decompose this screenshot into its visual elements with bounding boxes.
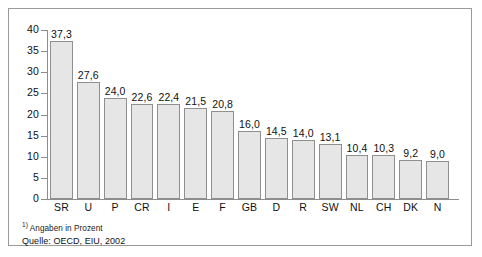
x-axis-label: I — [155, 201, 182, 213]
footnotes: 1) Angaben in Prozent Quelle: OECD, EIU,… — [22, 219, 452, 247]
bar — [184, 108, 207, 199]
footnote-marker: 1) — [22, 221, 28, 228]
bar-slot: 16,0 — [236, 22, 263, 199]
bar-value-label: 14,0 — [293, 127, 314, 139]
bar-slot: 24,0 — [102, 22, 129, 199]
bar-slot: 14,5 — [263, 22, 290, 199]
bar — [292, 140, 315, 199]
bar-value-label: 9,0 — [430, 148, 445, 160]
bar-value-label: 24,0 — [105, 85, 126, 97]
bar — [399, 160, 422, 199]
y-tick-mark — [41, 93, 47, 94]
bar-value-label: 14,5 — [266, 125, 287, 137]
x-axis-label: GB — [236, 201, 263, 213]
bar-value-label: 9,2 — [403, 147, 418, 159]
y-tick-label: 20 — [27, 108, 39, 120]
bar-slot: 22,4 — [155, 22, 182, 199]
bar — [211, 111, 234, 199]
bar-value-label: 20,8 — [212, 98, 233, 110]
y-tick-label: 15 — [27, 129, 39, 141]
bar — [131, 104, 154, 199]
bar — [265, 138, 288, 199]
x-axis-label: U — [75, 201, 102, 213]
x-axis-label: E — [182, 201, 209, 213]
x-axis-label: CR — [129, 201, 156, 213]
bar-slot: 9,2 — [397, 22, 424, 199]
bar-slot: 9,0 — [424, 22, 451, 199]
y-tick-label: 30 — [27, 65, 39, 77]
y-tick-mark — [41, 30, 47, 31]
y-tick-label: 10 — [27, 150, 39, 162]
bar-value-label: 16,0 — [239, 118, 260, 130]
x-axis-label: NL — [344, 201, 371, 213]
bar-slot: 21,5 — [182, 22, 209, 199]
bar-value-label: 27,6 — [78, 69, 99, 81]
bar — [372, 155, 395, 199]
bar-series: 37,327,624,022,622,421,520,816,014,514,0… — [48, 22, 451, 199]
y-tick-label: 35 — [27, 44, 39, 56]
y-tick-mark — [41, 136, 47, 137]
bar-slot: 37,3 — [48, 22, 75, 199]
bar-value-label: 21,5 — [185, 95, 206, 107]
bar — [426, 161, 449, 199]
bar — [104, 98, 127, 199]
x-axis-label: D — [263, 201, 290, 213]
y-tick-mark — [41, 157, 47, 158]
chart-figure: 4035302520151050 37,327,624,022,622,421,… — [8, 8, 472, 246]
x-axis-label: SW — [317, 201, 344, 213]
bar-slot: 20,8 — [209, 22, 236, 199]
bar-slot: 13,1 — [317, 22, 344, 199]
y-tick-mark — [41, 115, 47, 116]
y-tick-label: 0 — [33, 192, 39, 204]
bar-slot: 14,0 — [290, 22, 317, 199]
bar-value-label: 22,6 — [132, 91, 153, 103]
bar — [77, 82, 100, 199]
bar-slot: 10,4 — [344, 22, 371, 199]
x-axis-label: P — [102, 201, 129, 213]
y-tick-label: 25 — [27, 86, 39, 98]
bar-slot: 10,3 — [370, 22, 397, 199]
x-axis-label: F — [209, 201, 236, 213]
bar-value-label: 22,4 — [158, 91, 179, 103]
bar — [319, 144, 342, 199]
y-tick-mark — [41, 199, 47, 200]
bar — [50, 41, 73, 199]
bar — [157, 104, 180, 199]
x-axis-label: R — [290, 201, 317, 213]
unit-footnote-text: Angaben in Prozent — [30, 224, 103, 233]
x-axis-line — [47, 199, 459, 200]
y-tick-label: 5 — [33, 171, 39, 183]
y-tick-mark — [41, 178, 47, 179]
bar-slot: 22,6 — [129, 22, 156, 199]
x-axis-labels: SRUPCRIEFGBDRSWNLCHDKN — [48, 201, 451, 217]
bar-value-label: 37,3 — [51, 28, 72, 40]
bar-slot: 27,6 — [75, 22, 102, 199]
bar — [238, 131, 261, 199]
y-tick-mark — [41, 72, 47, 73]
plot-area: 4035302520151050 37,327,624,022,622,421,… — [47, 22, 451, 199]
bar-value-label: 13,1 — [320, 131, 341, 143]
y-tick-mark — [41, 51, 47, 52]
x-axis-label: SR — [48, 201, 75, 213]
bar-value-label: 10,3 — [373, 142, 394, 154]
bar — [346, 155, 369, 199]
y-tick-label: 40 — [27, 23, 39, 35]
x-axis-label: DK — [397, 201, 424, 213]
x-axis-label: CH — [370, 201, 397, 213]
bar-value-label: 10,4 — [347, 142, 368, 154]
unit-footnote: 1) Angaben in Prozent — [22, 219, 452, 234]
x-axis-label: N — [424, 201, 451, 213]
source-note: Quelle: OECD, EIU, 2002 — [22, 235, 452, 247]
